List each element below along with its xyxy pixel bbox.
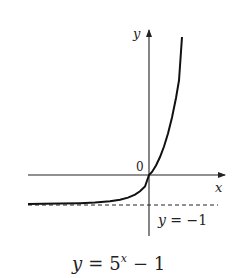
caption-lhs: y [71,253,83,274]
function-caption: y=5x− 1 [71,252,165,274]
caption-eq: = [88,253,103,274]
x-axis-label: x [215,180,223,195]
y-axis-label: y [132,26,141,41]
function-graph: y x 0 y = −1 y=5x− 1 [0,0,237,278]
asymptote-label-rest: = −1 [166,212,207,228]
caption-rest: − 1 [133,253,165,274]
asymptote-label: y = −1 [157,212,207,228]
exponential-curve [28,37,182,204]
caption-base: 5 [109,253,120,274]
origin-label: 0 [136,160,144,174]
caption-exponent: x [121,252,128,265]
